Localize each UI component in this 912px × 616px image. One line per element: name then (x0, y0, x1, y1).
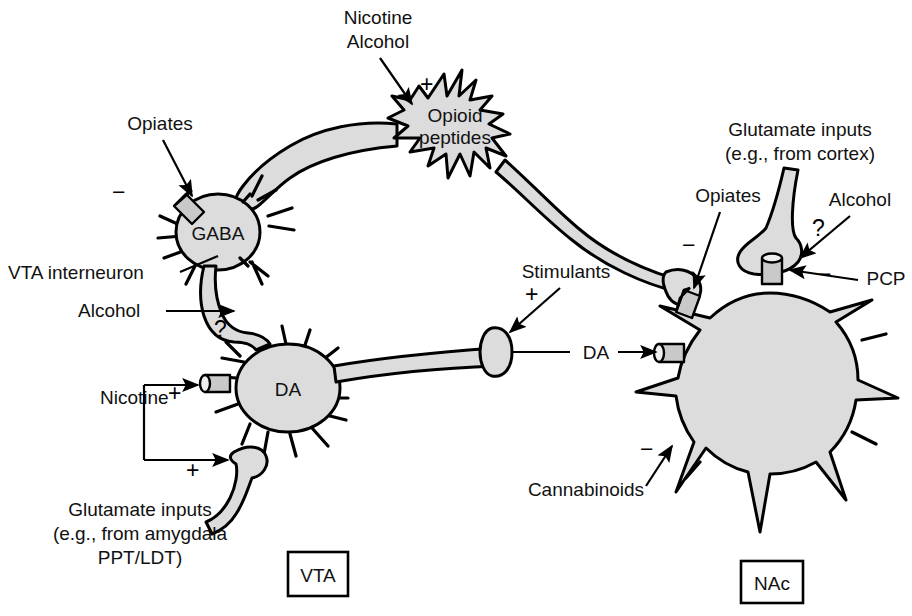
glutamate-cortex-label-line2: (e.g., from cortex) (725, 143, 875, 164)
alcohol-gaba-label: Alcohol (78, 300, 140, 321)
opioid-peptide-neuron: Opioid peptides (235, 70, 701, 306)
vta-interneuron-label: VTA interneuron (8, 262, 144, 283)
opiates-gaba-label: Opiates (127, 113, 192, 134)
pcp-label: PCP (866, 268, 905, 289)
alcohol-nac-question-sign: ? (812, 215, 825, 241)
opiates-gaba-minus-sign: − (112, 179, 125, 205)
nac-region-box: NAc (741, 561, 803, 603)
opiates-nac-leader (694, 212, 720, 288)
opiates-nac-minus-sign: − (682, 232, 695, 258)
glutamate-receptor-on-nac (762, 254, 782, 285)
nicotine-alcohol-plus-sign: + (420, 71, 433, 97)
nicotine-top-label: Nicotine (344, 7, 413, 28)
da-soma-label: DA (275, 379, 302, 400)
nac-region-label: NAc (754, 573, 790, 594)
gaba-soma-label: GABA (192, 223, 245, 244)
cannabinoids-label: Cannabinoids (528, 479, 644, 500)
da-neuron-receptor (200, 375, 230, 392)
da-axon-to-nac (334, 348, 496, 382)
nac-soma (636, 293, 898, 532)
glutamate-cortex-label-line1: Glutamate inputs (728, 119, 872, 140)
stimulants-label: Stimulants (522, 261, 611, 282)
nicotine-da-plus-sign: + (168, 380, 181, 406)
da-transmission-label: DA (583, 342, 610, 363)
opioid-soma-label-line2: peptides (419, 127, 491, 148)
alcohol-nac-label: Alcohol (829, 189, 891, 210)
da-receptor-on-nac (654, 344, 684, 362)
opioid-soma-label-line1: Opioid (428, 105, 483, 126)
glutamate-amygdala-label-line1: Glutamate inputs (68, 499, 212, 520)
nicotine-da-label: Nicotine (100, 387, 169, 408)
cannabinoids-minus-sign: − (640, 436, 653, 462)
diagram-canvas: Opioid peptides GABA DA (0, 0, 912, 616)
glutamate-amygdala-label-line3: PPT/LDT) (98, 547, 182, 568)
opiates-gaba-leader (163, 140, 192, 196)
pcp-minus-sign: − (818, 261, 831, 287)
nicotine-glutamate-plus-sign: + (186, 457, 199, 483)
opiates-nac-label: Opiates (695, 185, 760, 206)
reward-circuit-diagram: Opioid peptides GABA DA (0, 0, 912, 616)
alcohol-nac-leader (800, 216, 850, 258)
alcohol-top-label: Alcohol (347, 31, 409, 52)
stimulants-plus-sign: + (525, 281, 538, 307)
vta-region-label: VTA (300, 565, 336, 586)
alcohol-gaba-question-sign: ? (214, 316, 227, 342)
da-terminal-in-nac (480, 328, 512, 377)
nac-neuron (636, 293, 898, 532)
glutamate-amygdala-label-line2: (e.g., from amygdala (53, 523, 228, 544)
vta-region-box: VTA (288, 552, 348, 596)
